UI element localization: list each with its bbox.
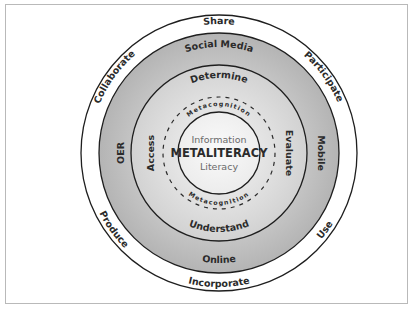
core-label-literacy: Literacy — [200, 161, 238, 172]
action-label-access: Access — [145, 134, 156, 171]
core-label-metaliteracy: METALITERACY — [171, 146, 269, 160]
media-label-online: Online — [202, 253, 237, 265]
media-label-oer: OER — [115, 141, 126, 164]
action-label-evaluate: Evaluate — [284, 130, 295, 177]
metaliteracy-diagram: Share Collaborate Participate Incorporat… — [0, 0, 414, 311]
outer-label-share: Share — [203, 15, 236, 27]
media-label-mobile: Mobile — [316, 135, 327, 171]
core-label-information: Information — [192, 134, 247, 145]
